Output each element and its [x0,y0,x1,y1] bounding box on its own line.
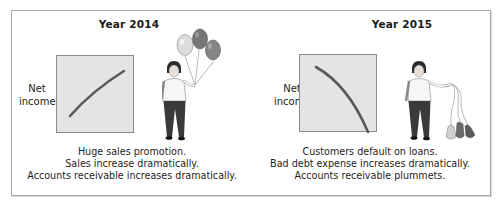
woman-holding-deflated-balloons-illustration [400,51,495,143]
panel-title: Year 2015 [342,18,462,30]
panel-year-2015: Year 2015 Net income [252,11,492,195]
deflated-balloon-icon [465,125,475,138]
falling-curve-icon [300,55,378,133]
net-income-chart-increasing [56,55,134,133]
rising-curve-icon [57,56,135,134]
balloon-icon [177,35,193,56]
balloon-icon [206,40,221,60]
panel-caption: Huge sales promotion. Sales increase dra… [12,146,252,182]
y-axis-label: Net income [19,82,55,108]
net-income-chart-decreasing [299,54,377,132]
deflated-balloon-icon [456,122,464,138]
balloon-icon [193,29,208,49]
deflated-balloon-icon [446,125,456,139]
woman-holding-inflated-balloons-illustration [162,23,242,141]
figure-frame: Year 2014 Net income [11,10,491,196]
panel-year-2014: Year 2014 Net income [12,11,252,195]
panel-caption: Customers default on loans. Bad debt exp… [250,146,490,182]
